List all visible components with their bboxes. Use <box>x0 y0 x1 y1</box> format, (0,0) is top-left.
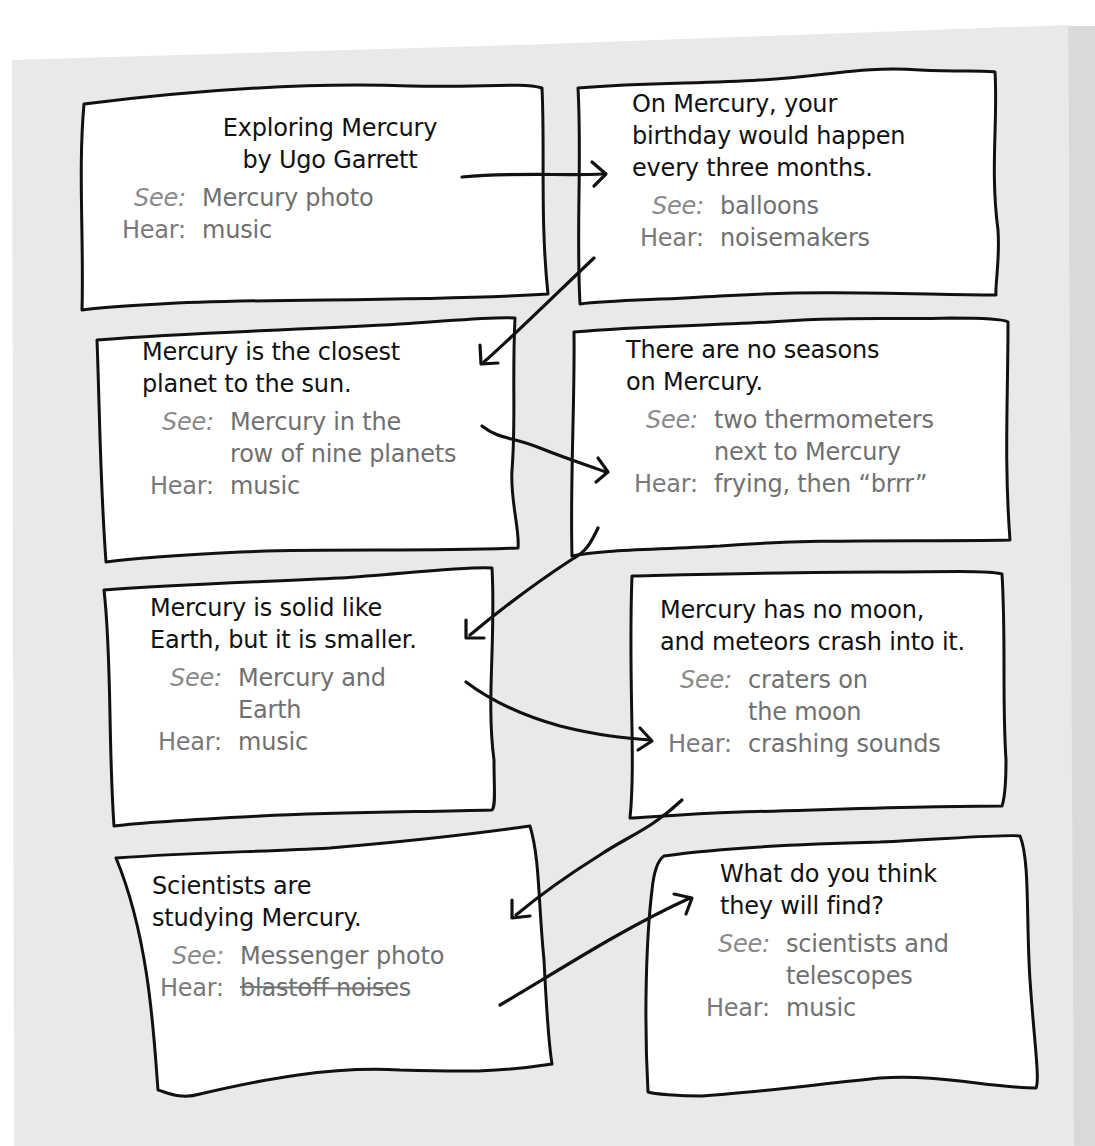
hear-label: Hear: <box>128 470 230 502</box>
hear-label: Hear: <box>136 726 238 758</box>
hear-row: Hear: music <box>100 214 530 246</box>
hear-row: Hear: noisemakers <box>618 222 998 254</box>
card-scientists-studying: Scientists are studying Mercury. See: Me… <box>138 870 538 1004</box>
card-closest-planet: Mercury is the closest planet to the sun… <box>128 336 518 502</box>
hear-value: blastoff noises <box>240 972 411 1004</box>
see-row: See: Mercury photo <box>100 182 530 214</box>
hear-value: frying, then “brrr” <box>714 468 927 500</box>
card-title-slide: Exploring Mercury by Ugo Garrett See: Me… <box>100 112 530 246</box>
hear-label: Hear: <box>138 972 240 1004</box>
hear-label: Hear: <box>618 222 720 254</box>
hear-row: Hear: frying, then “brrr” <box>612 468 1012 500</box>
see-label: See: <box>138 940 240 972</box>
see-value: balloons <box>720 190 819 222</box>
card-title: Scientists are studying Mercury. <box>138 870 538 934</box>
card-title: There are no seasons on Mercury. <box>612 334 1012 398</box>
see-label: See: <box>136 662 238 726</box>
see-row: See: craters on the moon <box>646 664 1006 728</box>
hear-row: Hear: blastoff noises <box>138 972 538 1004</box>
hear-value: noisemakers <box>720 222 870 254</box>
see-row: See: Mercury in the row of nine planets <box>128 406 518 470</box>
see-label: See: <box>684 928 786 992</box>
card-birthday: On Mercury, your birthday would happen e… <box>618 88 998 254</box>
see-row: See: two thermometers next to Mercury <box>612 404 1012 468</box>
see-row: See: balloons <box>618 190 998 222</box>
hear-row: Hear: music <box>684 992 1040 1024</box>
card-title: What do you think they will find? <box>700 858 1040 922</box>
messenger-term: Messenger <box>240 942 369 970</box>
hear-row: Hear: crashing sounds <box>646 728 1006 760</box>
card-solid-like-earth: Mercury is solid like Earth, but it is s… <box>136 592 496 758</box>
hear-label: Hear: <box>646 728 748 760</box>
hear-label: Hear: <box>684 992 786 1024</box>
card-title: On Mercury, your birthday would happen e… <box>618 88 998 184</box>
hear-label: Hear: <box>612 468 714 500</box>
see-value: Mercury photo <box>202 182 374 214</box>
see-label: See: <box>618 190 720 222</box>
hear-value: music <box>786 992 856 1024</box>
see-label: See: <box>100 182 202 214</box>
see-value: scientists and telescopes <box>786 928 949 992</box>
hear-value: music <box>238 726 308 758</box>
see-value: two thermometers next to Mercury <box>714 404 934 468</box>
hear-row: Hear: music <box>128 470 518 502</box>
see-value: Mercury and Earth <box>238 662 386 726</box>
card-title: Exploring Mercury by Ugo Garrett <box>100 112 530 176</box>
hear-label: Hear: <box>100 214 202 246</box>
see-label: See: <box>612 404 714 468</box>
card-no-moon: Mercury has no moon, and meteors crash i… <box>646 594 1006 760</box>
see-value: craters on the moon <box>748 664 868 728</box>
hear-row: Hear: music <box>136 726 496 758</box>
card-title: Mercury has no moon, and meteors crash i… <box>646 594 1006 658</box>
card-title: Mercury is solid like Earth, but it is s… <box>136 592 496 656</box>
card-title: Mercury is the closest planet to the sun… <box>128 336 518 400</box>
see-row: See: Mercury and Earth <box>136 662 496 726</box>
see-label: See: <box>646 664 748 728</box>
see-row: See: scientists and telescopes <box>684 928 1040 992</box>
card-no-seasons: There are no seasons on Mercury. See: tw… <box>612 334 1012 500</box>
see-label: See: <box>128 406 230 470</box>
hear-value: music <box>230 470 300 502</box>
hear-value: music <box>202 214 272 246</box>
see-value: Mercury in the row of nine planets <box>230 406 456 470</box>
see-value: Messenger photo <box>240 940 444 972</box>
hear-value: crashing sounds <box>748 728 941 760</box>
see-row: See: Messenger photo <box>138 940 538 972</box>
card-what-will-they-find: What do you think they will find? See: s… <box>700 858 1040 1024</box>
